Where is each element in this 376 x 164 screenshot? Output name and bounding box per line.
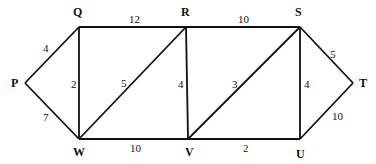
edge-r-v xyxy=(186,27,188,139)
edge-weight-v-u: 2 xyxy=(243,142,249,154)
edge-weight-q-r: 12 xyxy=(129,13,140,25)
edge-weight-s-u: 4 xyxy=(304,78,310,90)
edge-weight-v-s: 3 xyxy=(232,78,238,90)
edge-weight-u-t: 10 xyxy=(332,110,344,122)
edge-weight-r-s: 10 xyxy=(238,13,250,25)
edge-s-t xyxy=(300,27,353,83)
edge-p-w xyxy=(25,83,79,139)
edge-weight-q-w: 2 xyxy=(71,78,77,90)
edge-u-t xyxy=(300,83,353,139)
edge-weight-p-q: 4 xyxy=(43,42,49,54)
edge-weight-p-w: 7 xyxy=(43,111,49,123)
edge-p-q xyxy=(25,27,79,83)
edge-weight-s-t: 5 xyxy=(330,48,336,60)
node-label-w: W xyxy=(73,145,85,159)
node-label-v: V xyxy=(185,145,194,159)
edge-v-s xyxy=(188,27,300,139)
edge-weight-w-v: 10 xyxy=(130,142,142,154)
edge-w-r xyxy=(79,27,186,139)
node-label-q: Q xyxy=(73,5,82,19)
node-label-s: S xyxy=(295,5,302,19)
node-label-t: T xyxy=(359,76,367,90)
node-label-u: U xyxy=(296,147,305,161)
node-label-p: P xyxy=(11,76,18,90)
edge-weight-r-v: 4 xyxy=(178,78,184,90)
node-label-r: R xyxy=(181,5,190,19)
graph-diagram: 47122541010342510 PQRSTWVU xyxy=(0,0,376,164)
edge-weight-w-r: 5 xyxy=(121,77,127,89)
